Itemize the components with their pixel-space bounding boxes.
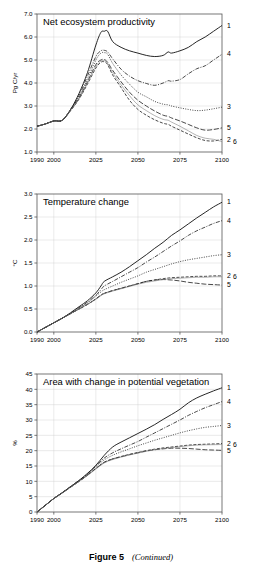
series-end-label-3: 3 — [227, 422, 231, 429]
series-end-label-4: 4 — [227, 398, 231, 405]
x-tick-label: 2075 — [173, 516, 187, 523]
series-end-label-4: 4 — [227, 50, 231, 57]
y-tick-label: 1.0 — [24, 282, 33, 289]
chart-panel-area-change-vegetation: 0510152025303540451990200020252050207521… — [0, 360, 262, 540]
series-line-6 — [37, 277, 222, 332]
y-tick-label: 3.0 — [24, 102, 33, 109]
y-tick-label: 7.0 — [24, 10, 33, 17]
y-tick-label: 35 — [26, 401, 33, 408]
y-tick-label: 2.0 — [24, 125, 33, 132]
series-end-label-5: 5 — [227, 124, 231, 131]
y-tick-label: 40 — [26, 386, 33, 393]
y-tick-label: 3.0 — [24, 190, 33, 197]
series-line-2 — [37, 444, 222, 512]
x-tick-label: 2000 — [47, 336, 61, 343]
y-tick-label: 0 — [29, 508, 33, 515]
series-line-3 — [37, 426, 222, 512]
series-end-label-6: 6 — [233, 441, 237, 448]
series-line-2 — [37, 276, 222, 332]
y-tick-label: 1.5 — [24, 259, 33, 266]
x-tick-label: 2025 — [89, 336, 103, 343]
x-tick-label: 1990 — [30, 336, 44, 343]
series-end-label-3: 3 — [227, 251, 231, 258]
y-tick-label: 2.0 — [24, 236, 33, 243]
x-tick-label: 2100 — [215, 336, 229, 343]
y-tick-label: 5.0 — [24, 56, 33, 63]
series-line-4 — [37, 50, 222, 126]
x-tick-label: 2025 — [89, 516, 103, 523]
x-tick-label: 2100 — [215, 156, 229, 163]
series-line-3 — [37, 52, 222, 126]
chart-panel-net-ecosystem-productivity: 1.02.03.04.05.06.07.01990200020252050207… — [0, 0, 262, 180]
y-tick-label: 1.0 — [24, 148, 33, 155]
y-axis-title: °C — [11, 259, 18, 266]
chart-svg-temperature-change: 0.00.51.01.52.02.53.01990200020252050207… — [0, 180, 262, 360]
series-end-label-4: 4 — [227, 217, 231, 224]
series-end-label-6: 6 — [233, 273, 237, 280]
x-tick-label: 2000 — [47, 156, 61, 163]
series-line-1 — [37, 202, 222, 332]
chart-svg-area-change-vegetation: 0510152025303540451990200020252050207521… — [0, 360, 262, 540]
figure-caption-note: (Continued) — [132, 552, 173, 562]
x-tick-label: 2025 — [89, 156, 103, 163]
figure-caption-label: Figure 5 — [89, 552, 124, 562]
y-tick-label: 4.0 — [24, 79, 33, 86]
chart-svg-net-ecosystem-productivity: 1.02.03.04.05.06.07.01990200020252050207… — [0, 0, 262, 180]
series-line-5 — [37, 448, 222, 512]
x-tick-label: 2050 — [131, 156, 145, 163]
panel-title: Area with change in potential vegetation — [43, 376, 209, 387]
y-tick-label: 6.0 — [24, 33, 33, 40]
y-axis-title: % — [11, 440, 18, 446]
y-tick-label: 0.5 — [24, 305, 33, 312]
x-tick-label: 1990 — [30, 156, 44, 163]
series-end-label-1: 1 — [227, 22, 231, 29]
series-line-5 — [37, 280, 222, 332]
series-line-4 — [37, 221, 222, 332]
y-tick-label: 30 — [26, 416, 33, 423]
y-tick-label: 2.5 — [24, 213, 33, 220]
y-tick-label: 10 — [26, 478, 33, 485]
series-end-label-2: 2 — [227, 136, 231, 143]
chart-panel-temperature-change: 0.00.51.01.52.02.53.01990200020252050207… — [0, 180, 262, 360]
x-tick-label: 2100 — [215, 516, 229, 523]
y-axis-title: Pg C/yr — [11, 73, 18, 94]
y-tick-label: 25 — [26, 432, 33, 439]
y-tick-label: 5 — [29, 493, 33, 500]
x-tick-label: 2050 — [131, 516, 145, 523]
x-tick-label: 1990 — [30, 516, 44, 523]
series-end-label-5: 5 — [227, 447, 231, 454]
series-line-5 — [37, 59, 222, 130]
series-line-6 — [37, 60, 222, 141]
x-tick-label: 2050 — [131, 336, 145, 343]
y-tick-label: 15 — [26, 462, 33, 469]
y-tick-label: 0.0 — [24, 328, 33, 335]
figure-caption: Figure 5(Continued) — [0, 552, 262, 562]
series-end-label-2: 2 — [227, 272, 231, 279]
series-end-label-1: 1 — [227, 384, 231, 391]
panel-title: Net ecosystem productivity — [43, 16, 155, 27]
y-tick-label: 45 — [26, 370, 33, 377]
panel-title: Temperature change — [43, 196, 129, 207]
series-line-1 — [37, 388, 222, 512]
x-tick-label: 2000 — [47, 516, 61, 523]
series-end-label-6: 6 — [233, 138, 237, 145]
figure-5-panel-group: 1.02.03.04.05.06.07.01990200020252050207… — [0, 0, 262, 576]
series-end-label-5: 5 — [227, 281, 231, 288]
series-line-4 — [37, 402, 222, 512]
series-end-label-3: 3 — [227, 103, 231, 110]
x-tick-label: 2075 — [173, 156, 187, 163]
y-tick-label: 20 — [26, 447, 33, 454]
series-end-label-1: 1 — [227, 198, 231, 205]
x-tick-label: 2075 — [173, 336, 187, 343]
